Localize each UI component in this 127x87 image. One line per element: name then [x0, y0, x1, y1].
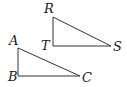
triangle-rts-shape — [53, 17, 111, 46]
triangles-diagram: R T S A B C — [0, 0, 127, 87]
vertex-label-b: B — [7, 69, 18, 84]
vertex-label-s: S — [113, 39, 122, 54]
vertex-label-c: C — [82, 70, 92, 85]
triangle-rts: R T S — [41, 1, 122, 54]
vertex-label-a: A — [8, 33, 18, 48]
vertex-label-r: R — [43, 1, 54, 16]
vertex-label-t: T — [41, 38, 51, 53]
